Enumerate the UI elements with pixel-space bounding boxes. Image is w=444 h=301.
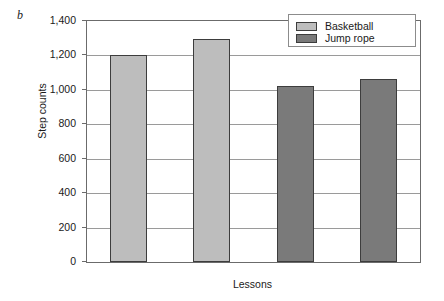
- legend-item-basketball[interactable]: Basketball: [296, 20, 373, 32]
- y-axis-ticks: 02004006008001,0001,2001,400: [0, 20, 80, 261]
- bar-jump-rope-3[interactable]: [277, 86, 314, 262]
- legend-swatch-icon: [296, 22, 317, 31]
- y-tick-label: 1,400: [50, 15, 76, 26]
- legend: BasketballJump rope: [288, 14, 416, 47]
- y-tick-label: 0: [70, 256, 76, 267]
- legend-label: Jump rope: [325, 33, 375, 44]
- legend-item-jump-rope[interactable]: Jump rope: [296, 32, 375, 44]
- legend-label: Basketball: [325, 21, 373, 32]
- bar-jump-rope-4[interactable]: [360, 79, 397, 262]
- y-tick-label: 600: [58, 153, 76, 164]
- bar-basketball-1[interactable]: [110, 55, 147, 262]
- legend-swatch-icon: [296, 34, 317, 43]
- y-tick-label: 400: [58, 187, 76, 198]
- y-tick-label: 200: [58, 222, 76, 233]
- bar-basketball-2[interactable]: [193, 39, 230, 262]
- y-tick-label: 800: [58, 118, 76, 129]
- y-tick-label: 1,000: [50, 84, 76, 95]
- y-tick-label: 1,200: [50, 49, 76, 60]
- figure-panel-b: b Step counts 02004006008001,0001,2001,4…: [0, 0, 444, 301]
- x-axis-title: Lessons: [86, 278, 419, 290]
- plot-area: [86, 20, 421, 263]
